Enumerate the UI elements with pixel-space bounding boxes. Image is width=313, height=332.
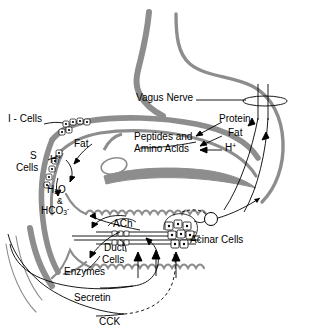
label-s-cells-line2: Cells <box>16 163 38 174</box>
label-vagus-nerve: Vagus Nerve <box>136 93 193 104</box>
label-h-plus-left: H+ <box>50 154 61 165</box>
pancreatic-secretion-diagram <box>0 0 313 332</box>
label-peptides-line2: Amino Acids <box>134 144 189 155</box>
common-duct <box>104 134 122 150</box>
enzyme-secretion-arrows <box>134 250 180 278</box>
label-bicarbonate: HCO3- <box>41 205 69 216</box>
label-water: H2O <box>47 185 66 196</box>
label-s-cells-line1: S <box>30 151 37 162</box>
label-ach: ACh <box>113 219 132 230</box>
label-duct-cells-line2: Cells <box>102 255 124 266</box>
label-fat-left: Fat <box>74 139 88 150</box>
label-fat-right: Fat <box>228 128 242 139</box>
label-acinar-cells: Acinar Cells <box>190 235 243 246</box>
label-peptides-line1: Peptides and <box>134 132 192 143</box>
endocrine-cell-chain <box>44 118 90 188</box>
ganglion-cell-body <box>182 198 260 226</box>
label-i-cells: I - Cells <box>8 114 42 125</box>
label-cck: CCK <box>99 317 120 328</box>
label-h-plus-right: H+ <box>225 142 236 153</box>
label-protein: Protein <box>219 114 251 125</box>
pancreatic-duct <box>104 168 256 188</box>
label-duct-cells-line1: Duct <box>104 243 125 254</box>
label-secretin: Secretin <box>74 293 111 304</box>
label-enzymes: Enzymes <box>64 267 105 278</box>
